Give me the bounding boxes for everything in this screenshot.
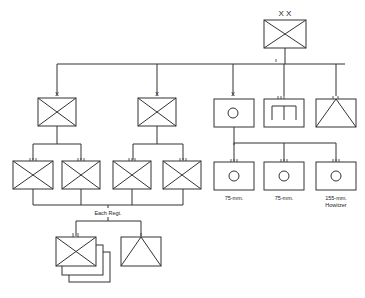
artillery-regiment-3-label-line-2: Howitzer — [325, 202, 347, 208]
signal-company-box — [121, 237, 161, 266]
org-chart: X X X X X 75-mm. 75-mm. 155-mm. Howitzer… — [0, 0, 365, 298]
brigade-2-echelon: X — [155, 91, 159, 97]
division-echelon: X X — [279, 9, 293, 18]
brigade-2-box — [138, 98, 176, 126]
regiment-box — [13, 161, 53, 189]
battalion-stack — [56, 237, 110, 282]
signal-unit-box — [316, 99, 356, 127]
division-box — [264, 20, 306, 48]
brigade-1-box — [38, 98, 76, 126]
artillery-brigade-box — [214, 99, 254, 127]
echelon-marks — [30, 59, 339, 237]
regiment-box — [62, 161, 100, 189]
engineer-regiment-box — [264, 99, 304, 127]
artillery-regiment-1-label: 75-mm. — [225, 195, 244, 201]
regiment-box — [163, 161, 201, 189]
each-regiment-label: Each Regt. — [94, 210, 122, 216]
artillery-regiment-box — [214, 162, 254, 190]
regiment-box — [113, 161, 151, 189]
brigade-1-echelon: X — [55, 91, 59, 97]
artillery-regiment-3-label-line-1: 155-mm. — [325, 195, 347, 201]
artillery-regiment-box — [264, 162, 304, 190]
artillery-brigade-echelon: X — [231, 91, 235, 97]
artillery-regiment-box — [316, 162, 356, 190]
artillery-regiment-2-label: 75-mm. — [275, 195, 294, 201]
